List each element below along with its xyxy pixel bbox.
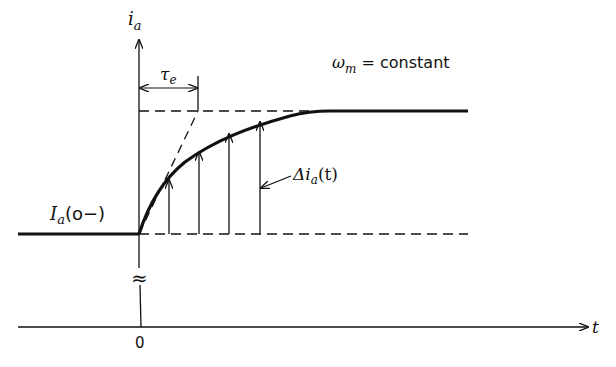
initial-current-label: Ia(o−) [49,203,105,227]
time-constant-label: τe [160,64,177,87]
speed-condition-label: ωm = constant [332,53,450,76]
axis-break-icon: ≈ [131,266,148,290]
current-axis-label: ia [128,8,142,33]
delta-current-label: Δia(t) [292,164,338,187]
current-axis-lower [140,285,141,327]
origin-label: 0 [135,334,145,352]
time-axis-label: t [592,317,599,337]
delta-label-pointer [261,176,291,188]
armature-current-step-response-diagram: t ≈ ia 0 τe Δia(t) Ia(o−) ωm = constant [0,0,616,367]
